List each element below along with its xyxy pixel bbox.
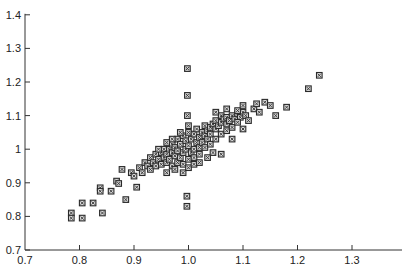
y-tick-label: 1.1: [6, 110, 21, 122]
data-point-marker: [180, 170, 186, 176]
data-point-marker: [185, 93, 191, 99]
data-point-marker: [175, 148, 181, 154]
x-tick-label: 1.3: [344, 254, 359, 266]
data-point-marker: [186, 165, 192, 171]
data-point-marker: [186, 130, 192, 136]
data-point-marker: [164, 170, 170, 176]
data-point-marker: [131, 173, 137, 179]
x-tick-label: 1.2: [290, 254, 305, 266]
data-point-marker: [108, 188, 114, 194]
y-axis: 0.70.80.911.11.21.31.4: [6, 9, 30, 256]
x-tick-label: 0.9: [126, 254, 141, 266]
data-point-marker: [218, 151, 224, 157]
data-point-marker: [229, 125, 235, 131]
data-point-marker: [235, 108, 241, 114]
data-point-marker: [240, 103, 246, 109]
data-point-marker: [156, 146, 162, 152]
data-point-marker: [167, 157, 173, 163]
y-tick-label: 1.3: [6, 42, 21, 54]
data-point-marker: [208, 131, 214, 137]
data-point-marker: [306, 86, 312, 92]
data-point-marker: [69, 215, 75, 221]
data-point-marker: [268, 103, 274, 109]
data-point-marker: [202, 145, 208, 151]
y-tick-label: 0.8: [6, 210, 21, 222]
data-point-marker: [180, 162, 186, 168]
data-point-marker: [185, 66, 191, 72]
y-tick-label: 1: [15, 143, 21, 155]
data-point-marker: [254, 101, 260, 107]
data-point-marker: [178, 130, 184, 136]
data-point-marker: [197, 160, 203, 166]
data-point-marker: [191, 162, 197, 168]
y-tick-label: 1.2: [6, 76, 21, 88]
data-point-marker: [218, 131, 224, 137]
data-point-marker: [100, 210, 106, 216]
data-point-marker: [224, 106, 230, 112]
data-point-marker: [184, 204, 190, 210]
data-point-marker: [172, 167, 178, 173]
data-point-marker: [235, 120, 241, 126]
data-point-marker: [79, 215, 85, 221]
data-point-marker: [284, 104, 290, 110]
data-point-marker: [185, 113, 191, 119]
data-point-marker: [262, 99, 268, 105]
x-tick-label: 0.7: [17, 254, 32, 266]
data-point-marker: [148, 167, 154, 173]
data-point-marker: [317, 73, 323, 79]
data-point-marker: [194, 126, 200, 132]
data-point-marker: [213, 136, 219, 142]
x-axis: 0.70.80.91.01.11.21.3: [17, 245, 402, 266]
data-point-marker: [240, 126, 246, 132]
data-points: [69, 66, 323, 221]
data-point-marker: [197, 151, 203, 157]
data-point-marker: [246, 118, 252, 124]
data-point-marker: [186, 123, 192, 129]
data-point-marker: [191, 155, 197, 161]
data-point-marker: [186, 157, 192, 163]
data-point-marker: [97, 188, 103, 194]
data-point-marker: [79, 200, 85, 206]
data-point-marker: [178, 141, 184, 147]
data-point-marker: [123, 197, 129, 203]
data-point-marker: [164, 140, 170, 146]
data-point-marker: [257, 109, 263, 115]
data-point-marker: [213, 109, 219, 115]
y-tick-label: 0.9: [6, 177, 21, 189]
data-point-marker: [224, 128, 230, 134]
data-point-marker: [208, 141, 214, 147]
data-point-marker: [229, 136, 235, 142]
data-point-marker: [159, 162, 165, 168]
x-tick-label: 1.0: [181, 254, 196, 266]
data-point-marker: [191, 146, 197, 152]
data-point-marker: [134, 184, 140, 190]
data-point-marker: [116, 181, 122, 187]
scatter-chart: 0.70.80.911.11.21.31.4 0.70.80.91.01.11.…: [0, 0, 407, 267]
data-point-marker: [139, 170, 145, 176]
data-point-marker: [153, 163, 159, 169]
x-tick-label: 1.1: [235, 254, 250, 266]
data-point-marker: [205, 155, 211, 161]
data-point-marker: [210, 150, 216, 156]
y-tick-label: 1.4: [6, 9, 21, 21]
data-point-marker: [169, 136, 175, 142]
data-point-marker: [119, 167, 125, 173]
data-point-marker: [184, 193, 190, 199]
data-point-marker: [186, 143, 192, 149]
data-point-marker: [90, 200, 96, 206]
x-tick-label: 0.8: [72, 254, 87, 266]
data-point-marker: [273, 113, 279, 119]
